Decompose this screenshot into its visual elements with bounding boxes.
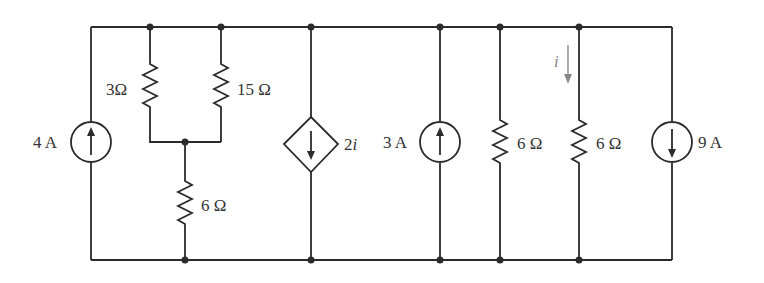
current-arrow-icon — [564, 74, 572, 84]
label-3a: 3 A — [383, 133, 408, 152]
resistor-6ohm-c: 6 Ω i — [554, 27, 621, 260]
arrow-down-icon — [668, 149, 676, 158]
resistor-6ohm-a: 6 Ω — [178, 142, 226, 260]
arrow-up-icon — [436, 127, 444, 136]
arrow-down-icon — [307, 151, 315, 160]
current-source-4a: 4 A — [33, 27, 111, 260]
circuit-diagram: 4 A 3Ω 15 Ω 6 Ω 2i 3 A 6 Ω 6 Ω — [0, 0, 764, 283]
label-current-i: i — [554, 52, 559, 71]
resistor-6ohm-b: 6 Ω — [493, 27, 542, 260]
label-4a: 4 A — [33, 133, 58, 152]
resistor-3ohm: 3Ω — [106, 27, 221, 142]
dependent-source-2i: 2i — [284, 27, 358, 260]
current-source-9a: 9 A — [652, 27, 723, 260]
label-6ohm-b: 6 Ω — [517, 134, 542, 153]
label-15ohm: 15 Ω — [237, 80, 271, 99]
current-source-3a: 3 A — [383, 27, 460, 260]
label-6ohm-c: 6 Ω — [596, 134, 621, 153]
label-3ohm: 3Ω — [106, 80, 127, 99]
label-2i: 2i — [344, 135, 358, 154]
arrow-up-icon — [87, 127, 95, 136]
label-6ohm-a: 6 Ω — [201, 196, 226, 215]
label-9a: 9 A — [698, 133, 723, 152]
resistor-15ohm: 15 Ω — [214, 27, 271, 142]
